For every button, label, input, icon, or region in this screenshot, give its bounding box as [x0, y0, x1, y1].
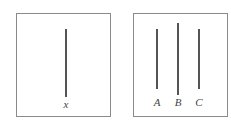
segment-a [156, 29, 158, 89]
label-a: A [154, 97, 161, 108]
segment-b [177, 23, 179, 95]
label-b: B [175, 97, 182, 108]
segment-c [198, 29, 200, 89]
segment-x [65, 29, 67, 97]
label-x: x [64, 99, 69, 110]
label-c: C [195, 97, 202, 108]
